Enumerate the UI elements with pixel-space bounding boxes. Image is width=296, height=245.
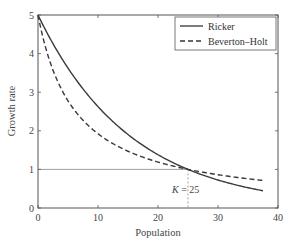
chart-canvas: 0 10 20 30 40 0 1 2 3 4 5 Population Gro… xyxy=(0,0,296,245)
y-tick-4: 4 xyxy=(29,48,34,59)
y-tick-2: 2 xyxy=(29,125,34,136)
y-tick-labels: 0 1 2 3 4 5 xyxy=(29,10,34,214)
y-tick-3: 3 xyxy=(29,87,34,98)
x-axis-label: Population xyxy=(135,227,181,238)
reference-lines xyxy=(38,169,188,208)
x-tick-labels: 0 10 20 30 40 xyxy=(36,212,284,223)
y-tick-5: 5 xyxy=(29,10,34,21)
x-tick-30: 30 xyxy=(213,212,223,223)
legend-bh-label: Beverton–Holt xyxy=(208,36,268,47)
y-tick-0: 0 xyxy=(29,203,34,214)
x-tick-20: 20 xyxy=(153,212,163,223)
x-tick-40: 40 xyxy=(273,212,283,223)
k-annotation: K = 25 xyxy=(171,184,199,195)
legend-ricker-label: Ricker xyxy=(208,21,235,32)
legend: Ricker Beverton–Holt xyxy=(175,17,276,50)
y-tick-1: 1 xyxy=(29,164,34,175)
x-tick-0: 0 xyxy=(36,212,41,223)
x-tick-10: 10 xyxy=(93,212,103,223)
y-axis-label: Growth rate xyxy=(6,85,17,136)
k-value: = 25 xyxy=(179,184,200,195)
